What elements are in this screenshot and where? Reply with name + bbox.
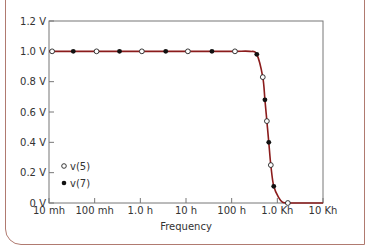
legend-label-v5: v(5) bbox=[70, 161, 90, 172]
response-curve bbox=[49, 51, 323, 203]
y-tick-label: 0.4 V bbox=[20, 137, 46, 148]
filled-circle-marker bbox=[266, 140, 271, 145]
filled-circle-marker bbox=[263, 97, 268, 102]
open-circle-marker bbox=[264, 119, 269, 124]
filled-circle-marker bbox=[271, 184, 276, 189]
x-tick-label: 100 h bbox=[217, 205, 246, 216]
x-tick-label: 1.0 h bbox=[128, 205, 153, 216]
y-tick-label: 1.2 V bbox=[20, 16, 46, 27]
x-tick-label: 100 mh bbox=[75, 205, 113, 216]
x-tick-label: 10 Kh bbox=[309, 205, 338, 216]
y-tick-label: 0.8 V bbox=[20, 76, 46, 87]
x-tick-label: 10 mh bbox=[33, 205, 65, 216]
open-circle-marker bbox=[50, 49, 55, 54]
filled-circle-marker bbox=[163, 49, 168, 54]
legend-open-circle-icon bbox=[62, 164, 67, 169]
y-tick-label: 0.2 V bbox=[20, 167, 46, 178]
filled-circle-marker bbox=[71, 49, 76, 54]
x-tick-label: 1.0 Kh bbox=[261, 205, 293, 216]
open-circle-marker bbox=[268, 163, 273, 168]
x-axis: 10 mh100 mh1.0 h10 h100 h1.0 Kh10 Kh bbox=[33, 198, 337, 216]
legend-label-v7: v(7) bbox=[70, 178, 90, 189]
filled-circle-marker bbox=[117, 49, 122, 54]
legend-filled-circle-icon bbox=[62, 181, 67, 186]
legend: v(5) v(7) bbox=[62, 161, 90, 189]
open-circle-marker bbox=[260, 75, 265, 80]
y-tick-label: 1.0 V bbox=[20, 46, 46, 57]
open-circle-marker bbox=[185, 49, 190, 54]
x-tick-label: 10 h bbox=[175, 205, 197, 216]
x-axis-title: Frequency bbox=[160, 221, 212, 232]
y-tick-label: 0.6 V bbox=[20, 107, 46, 118]
open-circle-marker bbox=[139, 49, 144, 54]
open-circle-marker bbox=[285, 201, 290, 206]
filled-circle-marker bbox=[210, 49, 215, 54]
plot-area bbox=[49, 21, 323, 203]
open-circle-marker bbox=[233, 49, 238, 54]
open-circle-marker bbox=[94, 49, 99, 54]
filled-circle-marker bbox=[254, 52, 259, 57]
